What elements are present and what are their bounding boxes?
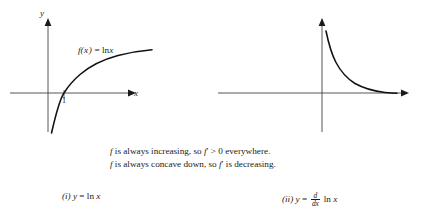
sub-caption-i-rhs: ln — [87, 191, 94, 201]
sub-caption-ii-fraction-numerator: d — [311, 192, 320, 200]
x-axis-label-left: x — [134, 89, 138, 98]
tick-label-one: 1 — [62, 97, 66, 105]
fraction-d-dx-sub-caption: d dx — [311, 192, 320, 209]
caption-1-text-b: > 0 everywhere. — [209, 146, 271, 156]
sub-caption-ii-equals: = — [302, 194, 307, 204]
x-axis-right — [218, 90, 409, 97]
caption-2-text-b: is decreasing. — [224, 159, 276, 169]
sub-caption-i-rhs-var: x — [96, 191, 100, 201]
plot-axes-and-curve-ln — [0, 0, 216, 140]
sub-caption-i-lhs: y — [73, 191, 77, 201]
sub-caption-i-equals: = — [79, 191, 84, 201]
sub-caption-ii: (ii) y = d dx ln x — [282, 192, 337, 209]
figure-ln-and-derivative: y x 1 f(x) = lnx y x f′(x) — [0, 0, 433, 220]
sub-caption-ii-rhs-var: x — [333, 194, 337, 204]
caption-line-2: f is always concave down, so f′ is decre… — [110, 158, 340, 171]
curve-derivative — [326, 31, 397, 93]
y-axis-label-left: y — [40, 9, 44, 18]
curve-label-f-expr-var: x — [109, 45, 113, 55]
x-axis-left — [10, 90, 136, 97]
caption-2-text-a: is always concave down, so — [113, 159, 219, 169]
sub-caption-ii-lhs: y — [296, 194, 300, 204]
sub-caption-ii-fraction-denominator: dx — [311, 199, 320, 208]
curve-label-f-arg: (x) — [81, 45, 93, 55]
sub-caption-i: (i) y = ln x — [62, 192, 100, 201]
sub-caption-ii-rhs: ln — [324, 194, 331, 204]
caption-1-text-a: is always increasing, so — [113, 146, 204, 156]
curve-label-f: f(x) = lnx — [78, 46, 113, 55]
sub-caption-ii-number: (ii) — [282, 194, 293, 204]
plot-panel-ln: y x 1 f(x) = lnx — [0, 0, 216, 140]
sub-caption-i-number: (i) — [62, 191, 71, 201]
figure-caption: f is always increasing, so f′ > 0 everyw… — [110, 145, 340, 170]
y-axis-left — [45, 18, 52, 132]
y-axis-right — [319, 18, 326, 132]
curve-label-f-equals: = — [95, 45, 100, 55]
plot-panel-derivative: y x f′(x) = d dx lnx — [216, 0, 432, 140]
caption-line-1: f is always increasing, so f′ > 0 everyw… — [110, 145, 340, 158]
plot-axes-and-curve-derivative — [216, 0, 433, 140]
